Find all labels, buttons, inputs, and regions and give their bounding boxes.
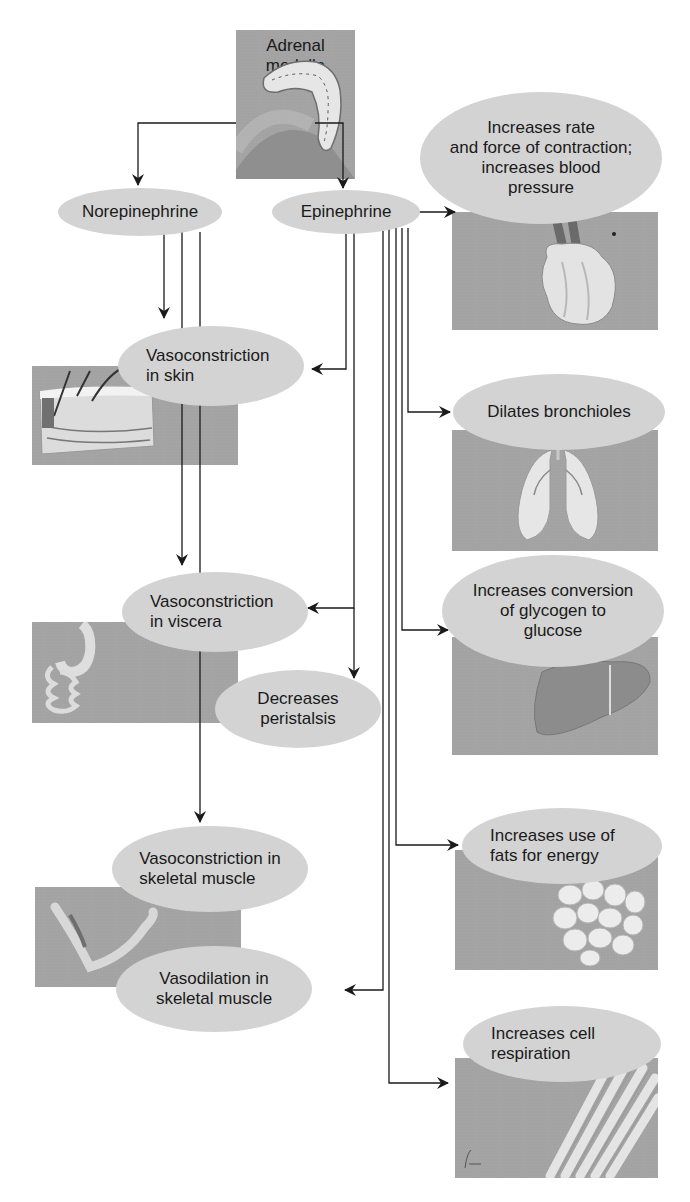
peristalsis-effect-node: Decreases peristalsis [215,670,381,748]
viscera-effect-line2: in viscera [150,612,273,632]
heart-effect-line1: Increases rate [450,118,632,138]
heart-effect-line4: pressure [450,178,632,198]
epinephrine-label: Epinephrine [301,202,392,222]
skeletal-dilation-node: Vasodilation in skeletal muscle [116,946,312,1032]
fats-effect-node: Increases use of fats for energy [462,808,662,884]
skin-effect-node: Vasoconstriction in skin [118,326,304,406]
fats-effect-line1: Increases use of [490,826,615,846]
liver-effect-line2: of glycogen to [473,601,634,621]
skeletal-dilation-line1: Vasodilation in [156,969,272,989]
skeletal-constriction-node: Vasoconstriction in skeletal muscle [112,826,308,912]
skin-effect-line1: Vasoconstriction [146,346,269,366]
liver-effect-line3: glucose [473,621,634,641]
skeletal-constriction-line1: Vasoconstriction in [139,849,280,869]
viscera-effect-line1: Vasoconstriction [150,592,273,612]
epinephrine-node: Epinephrine [272,190,420,234]
norepinephrine-label: Norepinephrine [82,202,198,222]
heart-effect-line3: increases blood [450,158,632,178]
heart-effect-line2: and force of contraction; [450,138,632,158]
respiration-effect-line1: Increases cell [491,1024,595,1044]
peristalsis-effect-line1: Decreases [257,689,338,709]
skeletal-constriction-line2: skeletal muscle [139,869,280,889]
viscera-effect-node: Vasoconstriction in viscera [122,572,308,652]
lungs-effect-node: Dilates bronchioles [453,374,665,450]
fats-effect-line2: fats for energy [490,846,615,866]
liver-effect-line1: Increases conversion [473,581,634,601]
norepinephrine-node: Norepinephrine [58,188,222,236]
lungs-effect-line1: Dilates bronchioles [487,402,631,422]
respiration-effect-line2: respiration [491,1044,595,1064]
heart-effect-node: Increases rate and force of contraction;… [420,92,662,224]
peristalsis-effect-line2: peristalsis [257,709,338,729]
liver-effect-node: Increases conversion of glycogen to gluc… [442,555,664,667]
skeletal-dilation-line2: skeletal muscle [156,989,272,1009]
skin-effect-line2: in skin [146,366,269,386]
respiration-effect-node: Increases cell respiration [463,1006,661,1082]
